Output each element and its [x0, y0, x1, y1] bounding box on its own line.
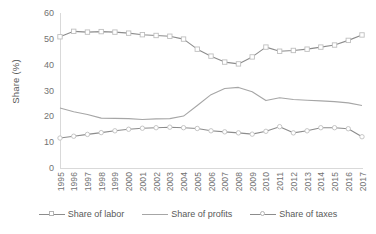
x-tick-label: 2010: [261, 172, 271, 191]
x-tick-label: 2014: [316, 172, 326, 191]
data-point-marker: [154, 126, 158, 130]
data-point-marker: [223, 60, 227, 64]
y-tick-label: 50: [28, 34, 54, 44]
data-point-marker: [277, 124, 281, 128]
data-point-marker: [360, 135, 364, 139]
data-point-marker: [223, 130, 227, 134]
legend-item[interactable]: Share of labor: [39, 209, 125, 219]
y-tick-label: 60: [28, 8, 54, 18]
data-point-marker: [99, 29, 103, 33]
legend-marker: [260, 211, 265, 216]
legend-label: Share of taxes: [279, 209, 337, 219]
data-point-marker: [209, 129, 213, 133]
series-line: [60, 87, 362, 119]
x-tick-label: 2003: [165, 172, 175, 191]
data-point-marker: [250, 132, 254, 136]
data-point-marker: [181, 37, 185, 41]
x-tick-label: 1996: [69, 172, 79, 191]
legend-swatch-icon: [39, 210, 65, 219]
legend-line: [142, 214, 168, 215]
x-axis-tick-labels: 1995199619971998199920002001200220032004…: [60, 172, 363, 204]
x-tick-label: 2002: [152, 172, 162, 191]
chart-legend: Share of laborShare of profitsShare of t…: [0, 209, 376, 219]
data-point-marker: [250, 55, 254, 59]
data-point-marker: [72, 134, 76, 138]
data-point-marker: [140, 33, 144, 37]
data-point-marker: [346, 38, 350, 42]
data-point-marker: [113, 30, 117, 34]
data-point-marker: [277, 49, 281, 53]
data-point-marker: [360, 33, 364, 37]
x-tick-label: 2006: [207, 172, 217, 191]
data-point-marker: [154, 33, 158, 37]
data-point-marker: [291, 48, 295, 52]
data-point-marker: [168, 125, 172, 129]
legend-swatch-icon: [250, 210, 276, 219]
y-tick-label: 20: [28, 111, 54, 121]
x-tick-label: 2015: [330, 172, 340, 191]
x-tick-label: 2000: [124, 172, 134, 191]
data-point-marker: [140, 126, 144, 130]
x-tick-label: 2017: [358, 172, 368, 191]
y-axis-title: Share (%): [10, 37, 21, 127]
x-tick-label: 2004: [179, 172, 189, 191]
y-tick-label: 30: [28, 86, 54, 96]
data-point-marker: [209, 54, 213, 58]
x-tick-label: 2011: [275, 172, 285, 191]
x-tick-label: 2009: [248, 172, 258, 191]
data-point-marker: [85, 132, 89, 136]
y-tick-label: 10: [28, 137, 54, 147]
data-point-marker: [113, 129, 117, 133]
data-point-marker: [319, 45, 323, 49]
y-tick-label: 0: [28, 163, 54, 173]
x-axis-line: [60, 168, 363, 169]
data-point-marker: [332, 43, 336, 47]
data-point-marker: [72, 29, 76, 33]
line-chart: Share (%) 0102030405060 1995199619971998…: [0, 0, 376, 234]
data-point-marker: [264, 45, 268, 49]
x-tick-label: 1995: [56, 172, 66, 191]
data-point-marker: [195, 126, 199, 130]
data-point-marker: [319, 126, 323, 130]
data-point-marker: [126, 127, 130, 131]
x-tick-label: 1999: [110, 172, 120, 191]
data-point-marker: [236, 131, 240, 135]
series-plot: [60, 13, 362, 168]
data-point-marker: [126, 31, 130, 35]
data-point-marker: [168, 34, 172, 38]
data-point-marker: [181, 126, 185, 130]
x-tick-label: 2005: [193, 172, 203, 191]
x-tick-label: 2008: [234, 172, 244, 191]
series-line: [60, 31, 362, 64]
data-point-marker: [236, 62, 240, 66]
data-point-marker: [99, 130, 103, 134]
data-point-marker: [346, 127, 350, 131]
legend-item[interactable]: Share of taxes: [250, 209, 337, 219]
data-point-marker: [305, 129, 309, 133]
legend-marker: [49, 211, 54, 216]
x-tick-label: 2007: [220, 172, 230, 191]
x-tick-label: 1997: [83, 172, 93, 191]
data-point-marker: [85, 30, 89, 34]
x-tick-label: 2013: [303, 172, 313, 191]
data-point-marker: [291, 131, 295, 135]
x-tick-label: 1998: [97, 172, 107, 191]
data-point-marker: [305, 47, 309, 51]
legend-label: Share of profits: [171, 209, 232, 219]
data-point-marker: [332, 126, 336, 130]
x-tick-label: 2016: [344, 172, 354, 191]
data-point-marker: [264, 129, 268, 133]
x-tick-label: 2012: [289, 172, 299, 191]
legend-label: Share of labor: [68, 209, 125, 219]
data-point-marker: [58, 35, 62, 39]
legend-item[interactable]: Share of profits: [142, 209, 232, 219]
y-tick-label: 40: [28, 60, 54, 70]
x-tick-label: 2001: [138, 172, 148, 191]
data-point-marker: [58, 136, 62, 140]
legend-swatch-icon: [142, 210, 168, 219]
y-axis-tick-labels: 0102030405060: [26, 13, 54, 168]
data-point-marker: [195, 47, 199, 51]
